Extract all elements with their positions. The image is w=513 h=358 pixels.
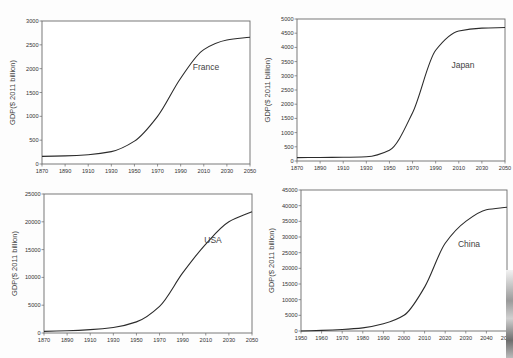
x-tick-label: 2030 bbox=[460, 335, 472, 341]
x-tick-label: 1960 bbox=[315, 335, 327, 341]
y-tick-label: 15000 bbox=[282, 281, 298, 287]
y-tick-label: 45000 bbox=[282, 187, 298, 193]
country-label-china: China bbox=[458, 239, 480, 249]
y-tick-label: 40000 bbox=[282, 203, 298, 209]
x-tick-label: 2010 bbox=[418, 335, 430, 341]
x-tick-label: 2000 bbox=[398, 335, 410, 341]
scan-edge-artifact bbox=[506, 270, 513, 358]
y-axis: 0500010000150002000025000300003500040000… bbox=[282, 187, 301, 334]
y-tick-label: 30000 bbox=[282, 234, 298, 240]
x-tick-label: 1980 bbox=[357, 335, 369, 341]
y-axis-title: GDP($ 2011 billion) bbox=[267, 228, 276, 293]
y-tick-label: 10000 bbox=[282, 297, 298, 303]
x-tick-label: 1970 bbox=[336, 335, 348, 341]
y-tick-label: 25000 bbox=[282, 250, 298, 256]
y-tick-label: 35000 bbox=[282, 218, 298, 224]
y-tick-label: 5000 bbox=[285, 312, 297, 318]
x-axis: 1950196019701980199020002010202020302040… bbox=[295, 331, 513, 341]
plot-area bbox=[301, 190, 507, 331]
y-tick-label: 0 bbox=[294, 328, 297, 334]
x-tick-label: 2020 bbox=[439, 335, 451, 341]
chart-china: 0500010000150002000025000300003500040000… bbox=[0, 0, 513, 358]
x-tick-label: 2040 bbox=[480, 335, 492, 341]
y-tick-label: 20000 bbox=[282, 265, 298, 271]
x-tick-label: 1990 bbox=[377, 335, 389, 341]
x-tick-label: 1950 bbox=[295, 335, 307, 341]
